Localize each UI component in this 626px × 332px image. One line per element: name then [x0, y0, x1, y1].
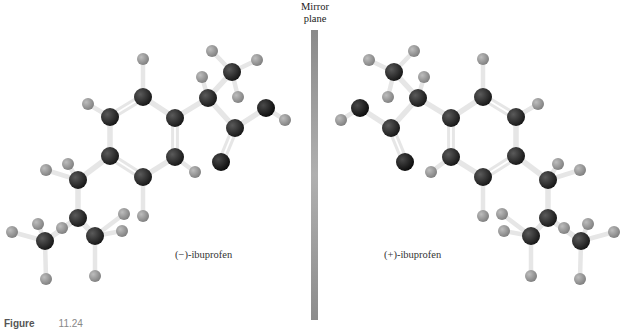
caption-prefix: Figure [4, 318, 35, 329]
hydrogen-atom [32, 218, 44, 230]
carbon-atom [507, 108, 525, 126]
hydrogen-atom [56, 222, 68, 234]
carbon-atom [539, 171, 557, 189]
mirror-label-line2: plane [284, 13, 346, 25]
hydrogen-atom [574, 164, 586, 176]
mirror-label-line1: Mirror [284, 1, 346, 13]
hydrogen-atom [137, 210, 149, 222]
oxygen-atom [257, 99, 275, 117]
carbon-atom [36, 232, 54, 250]
hydrogen-atom [574, 273, 586, 285]
carbon-atom [134, 168, 152, 186]
carbon-atom [442, 148, 460, 166]
carbon-atom [69, 209, 87, 227]
hydrogen-atom [62, 158, 74, 170]
oxygen-atom [396, 153, 414, 171]
carbon-atom [572, 232, 590, 250]
mirror-plane-label: Mirror plane [284, 1, 346, 25]
mirror-plane-bar [311, 30, 318, 320]
hydrogen-atom [89, 270, 101, 282]
hydrogen-atom [232, 91, 244, 103]
carbon-atom [539, 209, 557, 227]
carbon-atom [166, 109, 184, 127]
hydrogen-atom [552, 158, 564, 170]
carbon-atom [69, 171, 87, 189]
hydrogen-atom [477, 210, 489, 222]
carbon-atom [199, 89, 217, 107]
hydrogen-atom [6, 226, 18, 238]
carbon-atom [385, 63, 403, 81]
minus-ibuprofen-model [6, 45, 291, 285]
carbon-atom [474, 88, 492, 106]
hydrogen-atom [206, 45, 218, 57]
plus-ibuprofen-label: (+)-ibuprofen [384, 249, 441, 260]
hydrogen-atom [525, 270, 537, 282]
carbon-atom [409, 89, 427, 107]
hydrogen-atom [498, 225, 510, 237]
hydrogen-atom [251, 54, 263, 66]
carbon-atom [382, 119, 400, 137]
hydrogen-atom [196, 71, 208, 83]
carbon-atom [442, 109, 460, 127]
plus-ibuprofen-model [335, 45, 620, 285]
carbon-atom [166, 148, 184, 166]
carbon-atom [226, 119, 244, 137]
figure-caption: Figure11.24 [4, 318, 83, 329]
hydrogen-atom [118, 208, 130, 220]
oxygen-atom [351, 99, 369, 117]
hydrogen-atom [608, 226, 620, 238]
hydrogen-atom [137, 53, 149, 65]
hydrogen-atom [408, 45, 420, 57]
caption-number: 11.24 [59, 318, 83, 329]
hydrogen-atom [116, 225, 128, 237]
hydrogen-atom [496, 208, 508, 220]
hydrogen-atom [40, 164, 52, 176]
carbon-atom [522, 227, 540, 245]
hydrogen-atom [40, 273, 52, 285]
hydrogen-atom [477, 53, 489, 65]
carbon-atom [134, 88, 152, 106]
hydrogen-atom [363, 54, 375, 66]
minus-ibuprofen-label: (−)-ibuprofen [175, 249, 232, 260]
carbon-atom [507, 147, 525, 165]
hydrogen-atom [418, 71, 430, 83]
hydrogen-atom [82, 98, 94, 110]
carbon-atom [86, 227, 104, 245]
carbon-atom [101, 108, 119, 126]
hydrogen-atom [582, 218, 594, 230]
hydrogen-atom [189, 166, 201, 178]
hydrogen-atom [382, 91, 394, 103]
hydrogen-atom [335, 114, 347, 126]
carbon-atom [101, 147, 119, 165]
hydrogen-atom [558, 222, 570, 234]
carbon-atom [223, 63, 241, 81]
carbon-atom [474, 168, 492, 186]
hydrogen-atom [532, 98, 544, 110]
hydrogen-atom [279, 114, 291, 126]
oxygen-atom [212, 153, 230, 171]
hydrogen-atom [425, 166, 437, 178]
